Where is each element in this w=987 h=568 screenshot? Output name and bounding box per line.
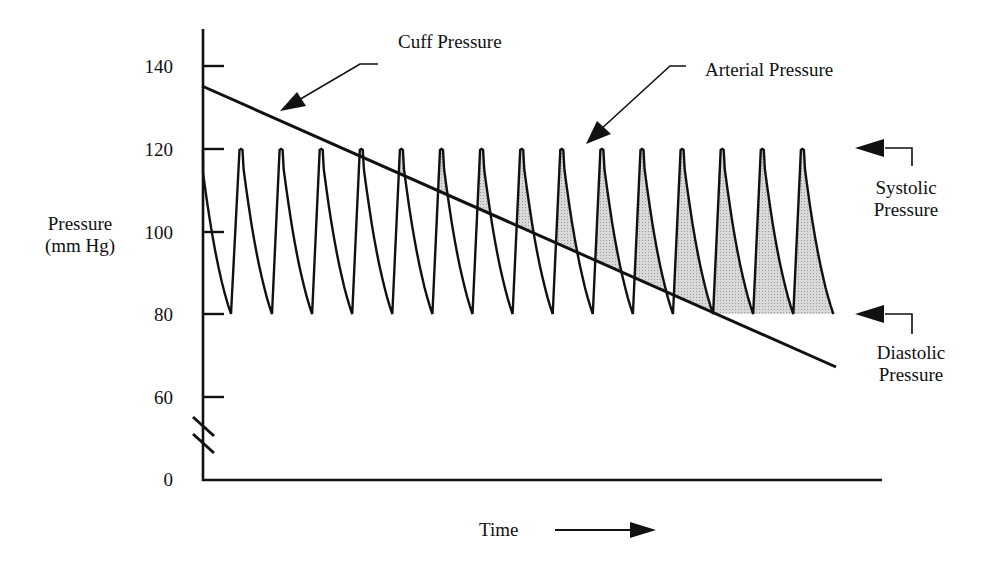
systolic-label-line2: Pressure xyxy=(856,199,956,221)
x-axis-label: Time xyxy=(479,519,518,541)
y-ticks xyxy=(203,66,224,397)
systolic-pressure-label: Systolic Pressure xyxy=(856,177,956,221)
arterial-pressure-label: Arterial Pressure xyxy=(705,59,833,81)
y-tick-80: 80 xyxy=(123,304,173,326)
systolic-arrow-icon xyxy=(855,139,912,166)
y-axis-label: Pressure (mm Hg) xyxy=(34,213,126,257)
time-arrow-icon xyxy=(555,522,656,538)
y-tick-0: 0 xyxy=(123,469,173,491)
y-tick-140: 140 xyxy=(123,56,173,78)
cuff-pressure-line xyxy=(202,86,836,367)
arterial-arrow-icon xyxy=(586,66,686,144)
y-axis-label-line1: Pressure xyxy=(34,213,126,235)
y-tick-120: 120 xyxy=(123,139,173,161)
diastolic-label-line2: Pressure xyxy=(857,364,965,386)
diastolic-pressure-label: Diastolic Pressure xyxy=(857,342,965,386)
cuff-pressure-label: Cuff Pressure xyxy=(398,31,502,53)
diastolic-arrow-icon xyxy=(855,305,912,334)
y-tick-60: 60 xyxy=(123,387,173,409)
systolic-label-line1: Systolic xyxy=(856,177,956,199)
cuff-arrow-icon xyxy=(280,64,378,111)
y-axis-label-line2: (mm Hg) xyxy=(34,235,126,257)
diastolic-label-line1: Diastolic xyxy=(857,342,965,364)
y-tick-100: 100 xyxy=(123,222,173,244)
